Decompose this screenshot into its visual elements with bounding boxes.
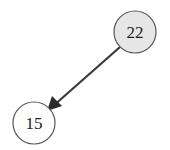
node-22[interactable]: 22: [114, 11, 156, 53]
node-22-label: 22: [127, 23, 144, 42]
edge-22-to-15: [47, 47, 120, 111]
tree-diagram: 22 15: [0, 0, 170, 150]
edge-line: [52, 47, 120, 107]
node-15-label: 15: [26, 114, 43, 133]
node-15[interactable]: 15: [13, 102, 55, 144]
